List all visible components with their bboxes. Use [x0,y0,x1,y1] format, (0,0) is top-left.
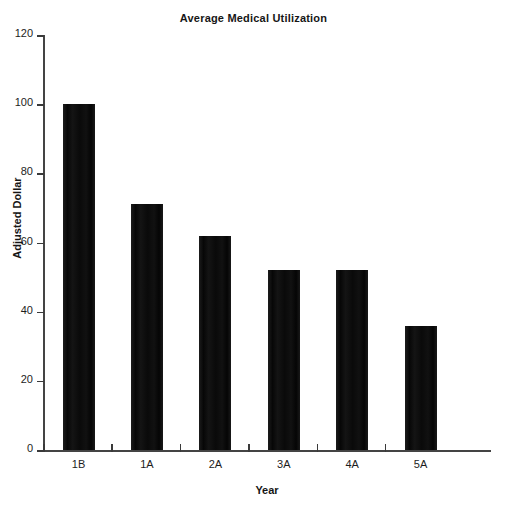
bar [268,270,300,450]
y-tick-mark [37,243,44,245]
x-tick-mark [43,444,45,452]
y-tick-label: 0 [0,442,33,454]
bar [336,270,368,450]
y-axis-title: Adjusted Dollar [11,103,23,333]
y-tick-label: 120 [0,27,33,39]
x-tick-mark [111,444,113,452]
x-tick-label: 3A [254,458,314,470]
chart-figure: Average Medical Utilization 020406080100… [0,0,507,509]
x-tick-mark [385,444,387,452]
x-tick-mark [317,444,319,452]
y-tick-mark [37,35,44,37]
x-tick-mark [248,444,250,452]
x-tick-label: 1B [49,458,109,470]
x-tick-label: 2A [185,458,245,470]
bar [405,326,437,451]
y-tick-mark [37,104,44,106]
y-tick-mark [37,173,44,175]
x-axis-line [43,450,491,452]
x-tick-label: 5A [391,458,451,470]
x-axis-title: Year [43,484,491,496]
x-tick-label: 4A [322,458,382,470]
bar [199,236,231,450]
y-tick-label: 20 [0,373,33,385]
bar [131,204,163,450]
y-tick-mark [37,381,44,383]
x-tick-mark [180,444,182,452]
x-tick-label: 1A [117,458,177,470]
chart-title: Average Medical Utilization [0,12,507,24]
y-tick-mark [37,312,44,314]
bar [63,104,95,450]
